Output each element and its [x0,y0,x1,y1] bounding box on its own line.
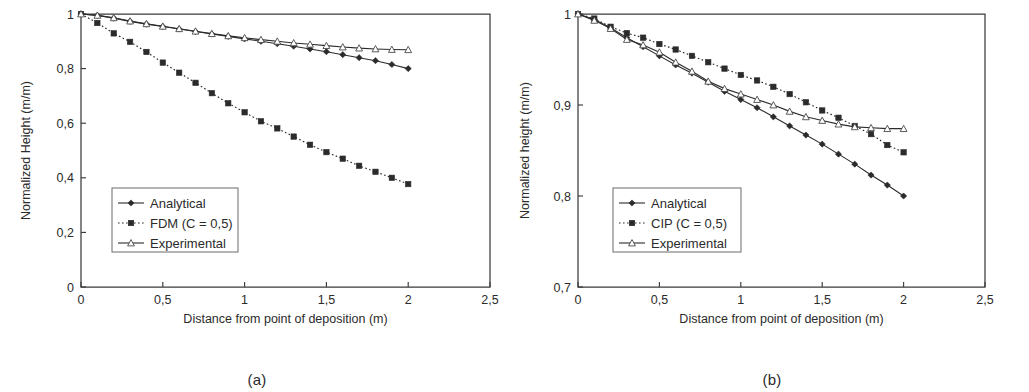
data-point-marker [771,84,776,89]
figure-two-panel-chart: 00,511,522,500,20,40,60,81Distance from … [0,0,1029,392]
data-point-marker [144,49,149,54]
data-point-marker [689,53,694,58]
data-point-marker [176,70,181,75]
data-point-marker [209,90,214,95]
y-tick-label: 0,4 [57,171,74,185]
data-point-marker [836,115,841,120]
data-point-marker [373,169,378,174]
data-point-marker [340,156,345,161]
data-point-marker [389,175,394,180]
y-axis-title: Normalized Height (m/m) [19,81,33,220]
y-tick-label: 0,6 [57,117,74,131]
data-point-marker [852,161,858,167]
data-point-marker [275,126,280,131]
data-point-marker [640,35,645,40]
data-point-marker [672,59,679,65]
legend-item-label: Analytical [150,196,206,211]
chart-panel-a: 00,511,522,500,20,40,60,81Distance from … [0,0,514,392]
series-analytical [575,11,907,199]
data-point-marker [258,119,263,124]
data-point-marker [323,49,329,55]
data-point-marker [706,60,711,65]
panel-caption-b: (b) [515,371,1029,388]
data-point-marker [624,30,629,35]
chart-svg-a: 00,511,522,500,20,40,60,81Distance from … [0,0,514,392]
data-point-marker [356,163,361,168]
y-tick-label: 0,9 [554,99,571,113]
data-point-marker [738,72,743,77]
legend-item-label: Experimental [651,236,727,251]
data-point-marker [656,49,663,55]
data-point-marker [868,172,874,178]
x-tick-label: 2,5 [976,293,993,307]
legend: AnalyticalFDM (C = 0,5)Experimental [112,188,238,252]
data-point-marker [885,142,890,147]
y-tick-label: 0,2 [57,226,74,240]
x-tick-label: 1,5 [318,293,335,307]
data-point-marker [324,149,329,154]
data-point-marker [226,101,231,106]
data-point-marker [160,60,165,65]
y-axis-title: Normalized height (m/m) [518,82,532,219]
data-point-marker [193,80,198,85]
y-tick-label: 0,8 [57,62,74,76]
x-tick-label: 2 [405,293,412,307]
x-tick-label: 0,5 [154,293,171,307]
data-point-marker [95,20,100,25]
data-point-marker [291,134,296,139]
data-point-marker [689,68,696,74]
data-point-marker [340,52,346,58]
data-point-marker [868,131,873,136]
data-point-marker [307,142,312,147]
data-point-marker [787,123,793,129]
x-tick-label: 2 [900,293,907,307]
data-point-marker [820,108,825,113]
x-axis-title: Distance from point of deposition (m) [183,312,387,326]
data-point-marker [835,151,841,157]
x-tick-label: 1,5 [814,293,831,307]
y-tick-label: 0 [67,281,74,295]
data-point-marker [721,85,728,91]
x-tick-label: 1 [737,293,744,307]
y-tick-label: 1 [564,8,571,22]
y-tick-label: 0,8 [554,190,571,204]
data-point-marker [803,132,809,138]
series-experimental [575,11,907,132]
data-point-marker [128,220,133,225]
x-axis-title: Distance from point of deposition (m) [679,312,883,326]
legend-item-label: Analytical [651,196,707,211]
x-tick-label: 0,5 [651,293,668,307]
series-cip-c-0-5 [575,11,906,155]
data-point-marker [405,66,411,72]
data-point-marker [657,41,662,46]
legend-item-label: FDM (C = 0,5) [150,216,233,231]
x-tick-label: 2,5 [481,293,498,307]
x-tick-label: 0 [575,293,582,307]
data-point-marker [901,193,907,199]
chart-svg-b: 00,511,522,50,70,80,91Distance from poin… [515,0,1029,392]
series-experimental [78,11,412,53]
y-tick-label: 0,7 [554,281,571,295]
legend-item-label: CIP (C = 0,5) [651,216,727,231]
data-point-marker [127,39,132,44]
data-point-marker [629,220,634,225]
x-tick-label: 1 [241,293,248,307]
panel-caption-a: (a) [0,371,574,388]
data-point-marker [787,91,792,96]
legend-item-label: Experimental [150,236,226,251]
legend: AnalyticalCIP (C = 0,5)Experimental [613,188,741,252]
data-point-marker [722,66,727,71]
data-point-marker [803,100,808,105]
data-point-marker [242,110,247,115]
data-point-marker [770,114,776,120]
x-tick-label: 0 [78,293,85,307]
data-point-marker [754,78,759,83]
chart-panel-b: 00,511,522,50,70,80,91Distance from poin… [515,0,1029,392]
data-point-marker [901,150,906,155]
data-point-marker [406,181,411,186]
data-point-marker [786,108,793,114]
data-point-marker [389,61,395,67]
data-point-marker [673,47,678,52]
data-point-marker [111,31,116,36]
data-point-marker [754,105,760,111]
